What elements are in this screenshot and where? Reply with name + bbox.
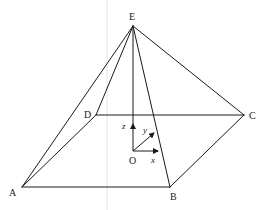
vertex-label-C: C	[249, 110, 256, 121]
axis-label-x: x	[150, 155, 155, 165]
axis-label-y: y	[142, 125, 147, 135]
edge-EA	[22, 26, 133, 187]
edge-ED	[96, 26, 133, 115]
vertex-label-E: E	[129, 11, 135, 22]
pyramid-diagram: E D C A B O z y x	[0, 0, 270, 210]
axis-label-z: z	[121, 121, 126, 131]
y-axis-arrow	[133, 133, 154, 151]
edge-BC	[170, 115, 244, 187]
edge-DA	[22, 115, 96, 187]
vertex-label-O: O	[129, 155, 136, 166]
vertex-label-B: B	[170, 191, 177, 202]
vertex-label-D: D	[84, 109, 91, 120]
vertex-label-A: A	[9, 187, 17, 198]
edge-EC	[133, 26, 244, 115]
